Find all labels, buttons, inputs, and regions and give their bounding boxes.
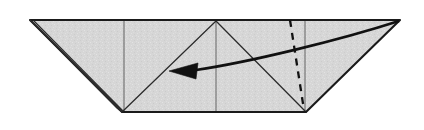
origami-diagram-svg <box>0 0 424 130</box>
origami-diagram-figure: Origami fold step diagram <box>0 0 424 130</box>
